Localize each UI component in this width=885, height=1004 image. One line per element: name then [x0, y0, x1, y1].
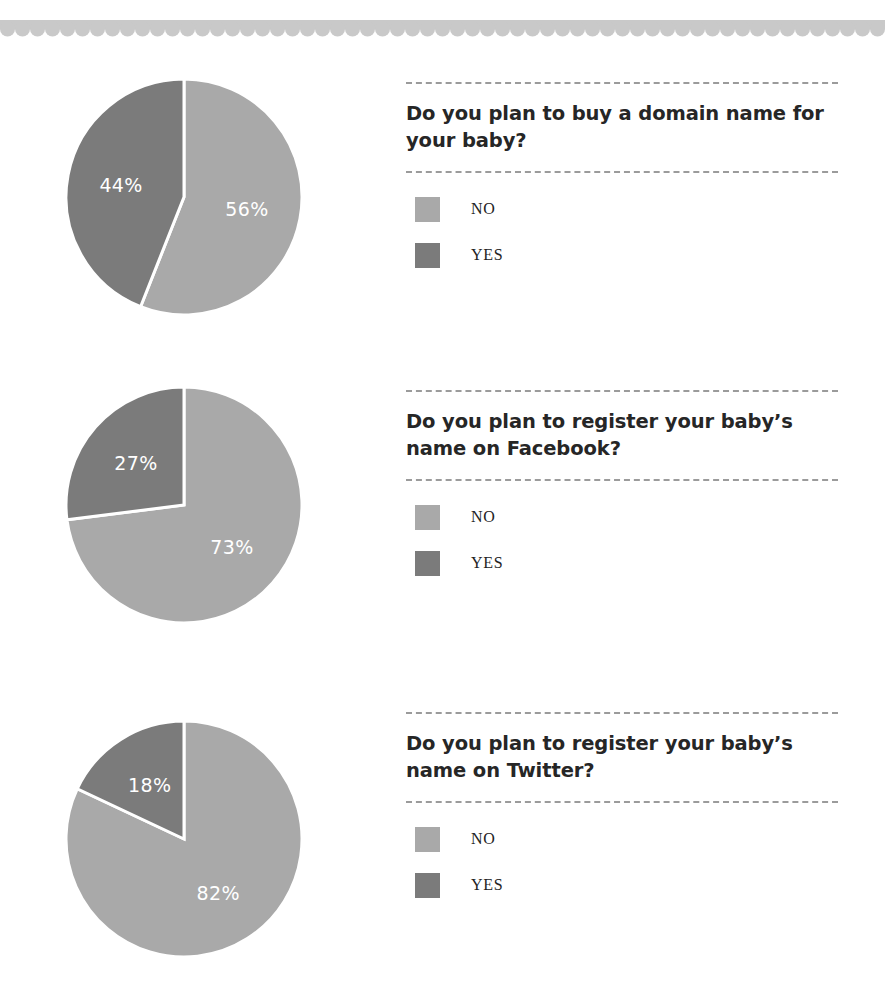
- legend-2: NO YES: [406, 505, 838, 576]
- pie-slice-value-no: 56%: [225, 198, 268, 220]
- legend-item-no[interactable]: NO: [406, 827, 838, 852]
- divider-bottom: [406, 801, 838, 803]
- question-text: Do you plan to buy a domain name for you…: [406, 101, 826, 155]
- pie-slice-value-yes: 18%: [128, 774, 171, 796]
- pie-chart-svg-1: 56%44%: [65, 78, 303, 316]
- pie-slice-value-yes: 44%: [99, 174, 142, 196]
- pie-slices: [66, 387, 302, 623]
- survey-sections: 56%44% Do you plan to buy a domain name …: [0, 0, 885, 1004]
- pie-chart-svg-2: 73%27%: [65, 386, 303, 624]
- divider-bottom: [406, 479, 838, 481]
- pie-slice-value-yes: 27%: [114, 452, 157, 474]
- legend-item-yes[interactable]: YES: [406, 551, 838, 576]
- legend-1: NO YES: [406, 197, 838, 268]
- legend-label-no: NO: [471, 508, 496, 526]
- legend-swatch-yes-icon: [415, 243, 440, 268]
- legend-label-no: NO: [471, 200, 496, 218]
- pie-slice-value-no: 73%: [210, 536, 253, 558]
- question-text: Do you plan to register your baby’s name…: [406, 409, 826, 463]
- legend-swatch-no-icon: [415, 505, 440, 530]
- pie-slices: [66, 721, 302, 957]
- question-block-2: Do you plan to register your baby’s name…: [406, 390, 838, 597]
- question-block-1: Do you plan to buy a domain name for you…: [406, 82, 838, 289]
- legend-item-no[interactable]: NO: [406, 505, 838, 530]
- legend-label-yes: YES: [471, 554, 503, 572]
- pie-chart-3: 82%18%: [65, 720, 303, 958]
- legend-3: NO YES: [406, 827, 838, 898]
- divider-top: [406, 390, 838, 392]
- pie-chart-1: 56%44%: [65, 78, 303, 316]
- legend-label-yes: YES: [471, 246, 503, 264]
- survey-section-1: 56%44% Do you plan to buy a domain name …: [0, 60, 885, 360]
- legend-item-no[interactable]: NO: [406, 197, 838, 222]
- question-block-3: Do you plan to register your baby’s name…: [406, 712, 838, 919]
- survey-section-3: 82%18% Do you plan to register your baby…: [0, 676, 885, 996]
- legend-label-no: NO: [471, 830, 496, 848]
- legend-swatch-no-icon: [415, 827, 440, 852]
- legend-swatch-yes-icon: [415, 551, 440, 576]
- pie-chart-svg-3: 82%18%: [65, 720, 303, 958]
- divider-top: [406, 712, 838, 714]
- divider-top: [406, 82, 838, 84]
- legend-swatch-yes-icon: [415, 873, 440, 898]
- legend-item-yes[interactable]: YES: [406, 243, 838, 268]
- legend-swatch-no-icon: [415, 197, 440, 222]
- pie-slices: [66, 79, 302, 315]
- legend-label-yes: YES: [471, 876, 503, 894]
- question-text: Do you plan to register your baby’s name…: [406, 731, 826, 785]
- pie-slice-value-no: 82%: [197, 882, 240, 904]
- pie-chart-2: 73%27%: [65, 386, 303, 624]
- divider-bottom: [406, 171, 838, 173]
- survey-section-2: 73%27% Do you plan to register your baby…: [0, 368, 885, 668]
- legend-item-yes[interactable]: YES: [406, 873, 838, 898]
